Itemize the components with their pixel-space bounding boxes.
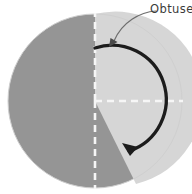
obtuse-angle-figure	[0, 0, 192, 194]
obtuse-angle-label: Obtuse a	[150, 2, 192, 16]
diagram-canvas: Obtuse a	[0, 0, 192, 194]
